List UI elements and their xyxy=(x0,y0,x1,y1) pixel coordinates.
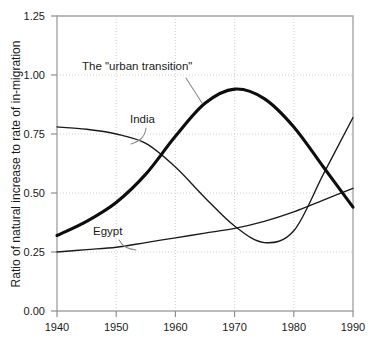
chart-canvas: 1.25 1.00 0.75 0.50 0.25 0.00 1940 1950 … xyxy=(0,0,376,352)
y-axis-title: Ratio of natural increase to rate of in-… xyxy=(9,41,23,288)
xtick-label-1950: 1950 xyxy=(104,321,128,333)
annotation-egypt: Egypt xyxy=(93,225,123,237)
xtick-label-1990: 1990 xyxy=(341,321,365,333)
annotation-india: India xyxy=(130,113,156,125)
ytick-label-0.25: 0.25 xyxy=(24,246,45,258)
ytick-label-0.75: 0.75 xyxy=(24,128,45,140)
xtick-label-1940: 1940 xyxy=(45,321,69,333)
xtick-label-1970: 1970 xyxy=(222,321,246,333)
xtick-label-1980: 1980 xyxy=(282,321,306,333)
chart-figure: 1.25 1.00 0.75 0.50 0.25 0.00 1940 1950 … xyxy=(0,0,376,352)
xtick-label-1960: 1960 xyxy=(163,321,187,333)
ytick-label-0.50: 0.50 xyxy=(24,187,45,199)
ytick-label-1.00: 1.00 xyxy=(24,69,45,81)
ytick-label-1.25: 1.25 xyxy=(24,10,45,22)
ytick-label-0.00: 0.00 xyxy=(24,305,45,317)
annotation-urban-transition: The "urban transition" xyxy=(82,60,192,72)
